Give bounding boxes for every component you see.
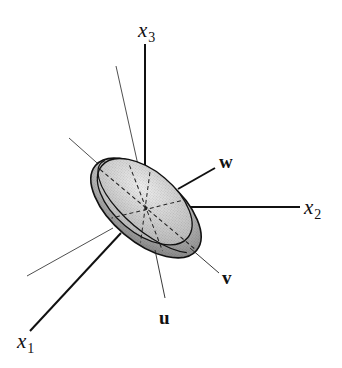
x2-axis-label: x2 (304, 197, 321, 222)
thin-line-top (116, 66, 138, 165)
v-vector-label: v (222, 268, 232, 287)
u-vector-line (155, 250, 165, 298)
diagram-graphic (0, 0, 342, 368)
x3-axis-label: x3 (138, 20, 155, 45)
w-vector-label: w (219, 152, 233, 171)
x1-axis-line (30, 233, 121, 331)
v-vector-line (190, 248, 219, 273)
thin-line-lower-left (27, 228, 113, 276)
ellipsoid-diagram: x3 x2 x1 w v u (0, 0, 342, 368)
x1-axis-label: x1 (17, 331, 34, 356)
u-vector-label: u (159, 308, 170, 327)
w-vector-line (178, 168, 215, 189)
